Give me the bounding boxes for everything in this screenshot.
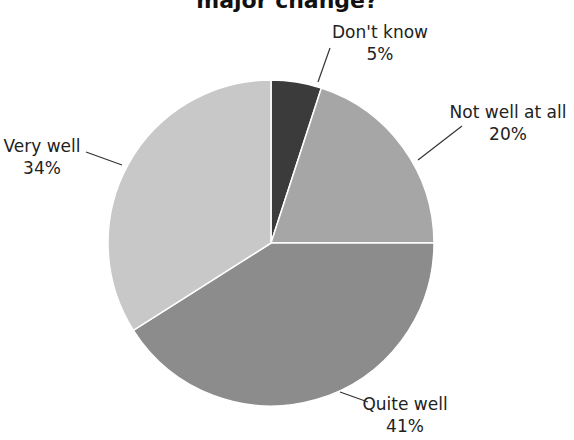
pie-chart: major change? Don't know5%Not well at al…	[0, 0, 574, 440]
leader-line	[318, 48, 330, 82]
leader-line	[418, 126, 462, 160]
chart-title: major change?	[196, 0, 378, 13]
slice-percent-label: 20%	[489, 124, 527, 144]
slice-percent-label: 5%	[367, 44, 394, 64]
slice-category-label: Not well at all	[450, 102, 567, 122]
slice-category-label: Very well	[3, 136, 80, 156]
leader-line	[86, 152, 122, 165]
slice-category-label: Quite well	[362, 394, 447, 414]
slice-percent-label: 34%	[23, 158, 61, 178]
slice-percent-label: 41%	[386, 416, 424, 436]
pie-slices	[108, 80, 434, 406]
slice-category-label: Don't know	[332, 22, 428, 42]
